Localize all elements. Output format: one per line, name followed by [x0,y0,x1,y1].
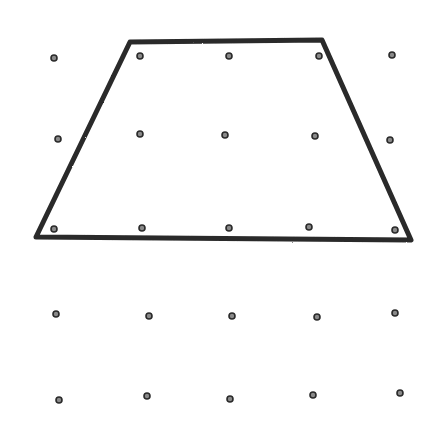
grid-dot [222,132,228,138]
grid-dot [392,310,398,316]
grid-dot [55,136,61,142]
grid-dot [227,396,233,402]
grid-dot [306,224,312,230]
grid-dot [144,393,150,399]
dot-grid-canvas: Trapezoid drawn on a dot grid [0,0,436,443]
grid-dot [389,52,395,58]
grid-dot [226,225,232,231]
grid-dot [312,133,318,139]
grid-dot [51,55,57,61]
grid-dot [316,53,322,59]
trapezoid-shape [36,40,411,240]
grid-dot [139,225,145,231]
grid-dot [137,131,143,137]
grid-dot [392,227,398,233]
grid-dot [137,53,143,59]
grid-dot [310,392,316,398]
grid-dot [51,226,57,232]
grid-dot [314,314,320,320]
grid-dot [226,53,232,59]
grid-dot [397,390,403,396]
drawing-surface [0,0,436,443]
grid-dot [53,311,59,317]
grid-dot [229,313,235,319]
grid-dot [387,137,393,143]
grid-dot [146,313,152,319]
grid-dot [56,397,62,403]
